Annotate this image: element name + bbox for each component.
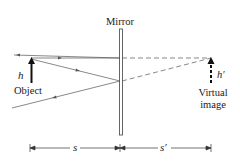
ray-diagram: Mirror h Object h′ Virtual image s s′ <box>0 0 240 163</box>
ray-arrow-icon <box>52 96 57 99</box>
image-height-label: h′ <box>217 70 225 81</box>
ray-arrow-icon <box>76 69 81 72</box>
ray-oblique <box>12 59 120 108</box>
image-distance-label: s′ <box>160 142 167 153</box>
ray-arrow-icon <box>16 54 20 57</box>
virtual-image-label-line2: image <box>193 100 233 111</box>
mirror <box>120 29 123 135</box>
object-distance-label: s <box>73 142 77 153</box>
object-arrow <box>28 57 35 83</box>
mirror-label: Mirror <box>106 17 134 28</box>
ray-arrow-icon <box>58 57 62 60</box>
virtual-rays <box>122 58 211 81</box>
dimension-lines <box>30 144 211 152</box>
object-label: Object <box>14 86 42 97</box>
object-height-label: h <box>18 70 24 81</box>
ray-horizontal <box>14 55 120 58</box>
image-arrow <box>208 57 215 83</box>
virtual-image-label-line1: Virtual <box>193 88 233 99</box>
